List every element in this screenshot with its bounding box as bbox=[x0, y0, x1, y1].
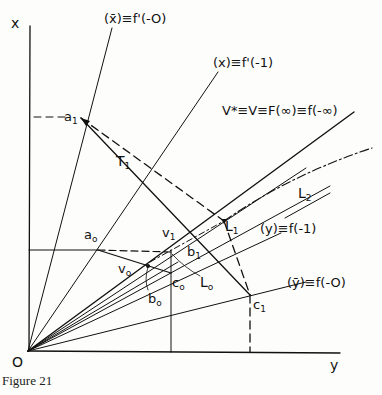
point-c1-label: c1 bbox=[253, 298, 266, 311]
x-axis bbox=[29, 26, 30, 351]
point-L1-label: L1 bbox=[225, 219, 239, 233]
point-b1-label: b1 bbox=[187, 245, 201, 258]
x-axis-label: x bbox=[11, 16, 19, 30]
y-axis-label: y bbox=[330, 358, 338, 372]
line-T1 bbox=[81, 118, 224, 221]
T1-label: T1 bbox=[116, 154, 130, 168]
L2-label: L2 bbox=[298, 186, 312, 200]
L0-label: Lo bbox=[200, 275, 213, 289]
diagram-lines bbox=[0, 0, 382, 395]
ray-ybar bbox=[28, 282, 306, 351]
ray-v-star-label: V*≡V≡F(∞)≡f(-∞) bbox=[222, 104, 338, 117]
point-a0-label: ao bbox=[84, 228, 97, 241]
point-v1-label: v1 bbox=[162, 226, 175, 239]
point-a1-label: a1 bbox=[64, 110, 78, 123]
point-b0-label: bo bbox=[148, 292, 162, 305]
point-c0-label: co bbox=[172, 276, 185, 289]
ray-y bbox=[28, 186, 330, 351]
ray-ybar-label: (ȳ)≡f(-O) bbox=[287, 276, 346, 289]
figure-21-diagram: x y O (x̄)≡f'(-O) (x)≡f'(-1) V*≡V≡F(∞)≡f… bbox=[0, 0, 382, 395]
ray-y-label: (y)≡f(-1) bbox=[260, 222, 316, 235]
v0-dot bbox=[146, 264, 150, 268]
ray-x-label: (x)≡f'(-1) bbox=[213, 56, 273, 69]
point-v0-label: vo bbox=[118, 262, 131, 275]
ray-x bbox=[28, 72, 218, 351]
y-axis bbox=[28, 351, 340, 353]
figure-caption: Figure 21 bbox=[2, 374, 52, 387]
origin-label: O bbox=[12, 355, 23, 369]
ray-xbar bbox=[28, 28, 112, 351]
a0-dash bbox=[98, 250, 171, 252]
ray-xbar-label: (x̄)≡f'(-O) bbox=[104, 12, 166, 25]
